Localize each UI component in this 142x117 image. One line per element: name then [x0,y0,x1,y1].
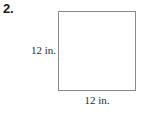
figure-height-label: 12 in. [21,44,56,57]
problem-item: 2. 12 in. 12 in. [0,0,142,117]
figure-width-label: 12 in. [58,94,136,107]
problem-number: 2. [3,1,13,16]
square-figure [58,11,136,91]
